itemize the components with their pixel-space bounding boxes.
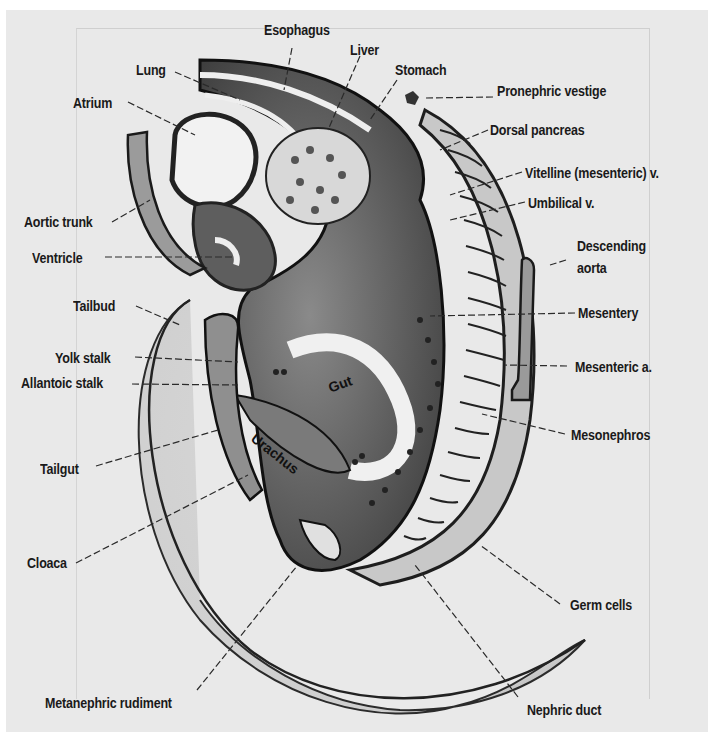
label-stomach: Stomach bbox=[395, 62, 446, 78]
label-lung: Lung bbox=[136, 62, 166, 78]
label-nephric-duct: Nephric duct bbox=[527, 702, 601, 718]
label-yolk-stalk: Yolk stalk bbox=[55, 350, 111, 366]
label-tailbud: Tailbud bbox=[73, 298, 115, 314]
label-umbilical-vein: Umbilical v. bbox=[528, 195, 594, 211]
label-liver: Liver bbox=[350, 42, 379, 58]
label-dorsal-pancreas: Dorsal pancreas bbox=[490, 122, 584, 138]
label-germ-cells: Germ cells bbox=[570, 597, 632, 613]
label-tailgut: Tailgut bbox=[40, 461, 79, 477]
label-mesentery: Mesentery bbox=[578, 305, 638, 321]
label-allantoic-stalk: Allantoic stalk bbox=[21, 375, 103, 391]
label-atrium: Atrium bbox=[73, 95, 112, 111]
label-ventricle: Ventricle bbox=[32, 250, 82, 266]
label-vitelline-vein: Vitelline (mesenteric) v. bbox=[525, 165, 659, 181]
label-descending-aorta-line1: Descending bbox=[577, 238, 646, 254]
label-mesonephros: Mesonephros bbox=[571, 427, 650, 443]
label-pronephric-vestige: Pronephric vestige bbox=[497, 83, 606, 99]
label-mesenteric-artery: Mesenteric a. bbox=[575, 359, 652, 375]
label-esophagus: Esophagus bbox=[264, 22, 330, 38]
label-descending-aorta-line2: aorta bbox=[577, 260, 607, 276]
label-cloaca: Cloaca bbox=[27, 555, 67, 571]
label-aortic-trunk: Aortic trunk bbox=[24, 214, 93, 230]
pronephric-vestige-mark bbox=[405, 91, 419, 105]
label-metanephric-rudiment: Metanephric rudiment bbox=[45, 695, 172, 711]
